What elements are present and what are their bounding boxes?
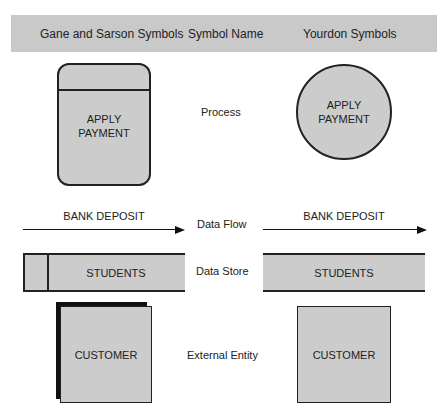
yourdon-process-label-line1: APPLY [298, 98, 390, 112]
header-band: Gane and Sarson Symbols Symbol Name Your… [11, 15, 437, 52]
yourdon-entity-label: CUSTOMER [298, 348, 390, 362]
process-id-divider [59, 89, 149, 91]
header-symbol-name: Symbol Name [188, 27, 263, 41]
header-yourdon: Yourdon Symbols [303, 27, 397, 41]
yourdon-data-flow-arrow [263, 226, 427, 234]
yourdon-process-label-line2: PAYMENT [298, 112, 390, 126]
gs-process-label: APPLY PAYMENT [59, 112, 149, 140]
gs-datastore-label: STUDENTS [47, 266, 185, 280]
arrow-shaft [263, 229, 419, 230]
symbol-name-process: Process [201, 106, 241, 118]
yourdon-process-symbol: APPLY PAYMENT [296, 64, 392, 160]
gane-sarson-external-entity-symbol: CUSTOMER [60, 306, 152, 403]
gane-sarson-process-symbol: APPLY PAYMENT [57, 63, 151, 186]
yourdon-datastore-label: STUDENTS [263, 266, 425, 280]
yourdon-external-entity-symbol: CUSTOMER [297, 306, 391, 403]
gs-dataflow-label: BANK DEPOSIT [23, 209, 185, 223]
arrow-shaft [23, 229, 177, 230]
symbol-name-data-flow: Data Flow [197, 218, 247, 230]
symbol-name-data-store: Data Store [196, 265, 249, 277]
gs-process-label-line1: APPLY [59, 112, 149, 126]
arrowhead-icon [417, 226, 427, 234]
symbol-name-external-entity: External Entity [187, 349, 258, 361]
yourdon-process-label: APPLY PAYMENT [298, 98, 390, 126]
gane-sarson-data-store-symbol: STUDENTS [23, 253, 185, 292]
arrowhead-icon [175, 226, 185, 234]
header-gane-sarson: Gane and Sarson Symbols [40, 27, 183, 41]
gs-entity-label: CUSTOMER [61, 348, 151, 362]
yourdon-data-store-symbol: STUDENTS [263, 253, 425, 292]
gane-sarson-data-flow-arrow [23, 226, 185, 234]
yourdon-dataflow-label: BANK DEPOSIT [263, 209, 425, 223]
gs-process-label-line2: PAYMENT [59, 126, 149, 140]
